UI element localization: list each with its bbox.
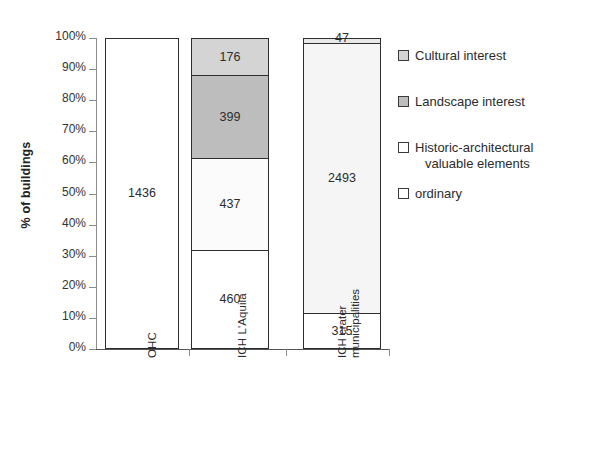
y-tick-label: 20% (62, 278, 86, 292)
segment-landscape-interest[interactable]: 399 (192, 76, 268, 159)
segment-value-label: 2493 (328, 172, 356, 185)
x-category-tick (189, 349, 190, 356)
plot-area: 100% 90% 80% 70% 60% 50% 40% 30% (96, 38, 390, 350)
segment-ordinary[interactable]: 460 (192, 251, 268, 348)
segment-historic-architectural[interactable]: 2493 (304, 44, 380, 314)
legend-swatch-icon (398, 96, 409, 107)
y-tick-label: 50% (62, 185, 86, 199)
y-tick-mark (89, 287, 96, 288)
y-tick-mark (89, 225, 96, 226)
segment-value-label: 176 (220, 51, 241, 64)
bar-ich-laquila[interactable]: 176 399 437 460 (191, 38, 269, 349)
legend-item-ordinary[interactable]: ordinary (398, 186, 598, 202)
legend-item-landscape-interest[interactable]: Landscape interest (398, 94, 598, 110)
legend-swatch-icon (398, 188, 409, 199)
legend-label: ordinary (415, 186, 462, 202)
y-tick-label: 40% (62, 216, 86, 230)
y-tick-mark (89, 256, 96, 257)
y-axis-title: % of buildings (19, 115, 33, 255)
x-axis-label-ich-laquila: ICH L'Aquila (236, 293, 248, 358)
y-tick-label: 60% (62, 153, 86, 167)
segment-ordinary[interactable]: 1436 (106, 39, 178, 348)
legend-item-cultural-interest[interactable]: Cultural interest (398, 48, 598, 64)
legend-label: Landscape interest (415, 94, 525, 110)
segment-value-label: 437 (220, 198, 241, 211)
segment-value-label: 47 (335, 32, 349, 45)
y-tick-mark (89, 131, 96, 132)
legend-swatch-icon (398, 142, 409, 153)
y-tick-label: 80% (62, 91, 86, 105)
x-axis-label-line1: ICH crater (336, 306, 348, 358)
y-tick-mark (89, 69, 96, 70)
legend: Cultural interest Landscape interest His… (398, 48, 598, 232)
legend-label-line2: valuable elements (425, 156, 533, 172)
y-tick-mark (89, 194, 96, 195)
legend-item-historic-architectural[interactable]: Historic-architectural valuable elements (398, 140, 598, 172)
legend-label-line1: Historic-architectural (415, 140, 533, 155)
y-tick-mark (89, 349, 96, 350)
x-axis-label-ohc: OHC (146, 332, 158, 358)
y-tick-mark (89, 162, 96, 163)
y-tick-label: 70% (62, 122, 86, 136)
legend-label: Cultural interest (415, 48, 506, 64)
segment-cultural-interest[interactable]: 176 (192, 39, 268, 76)
y-tick-mark (89, 100, 96, 101)
y-tick-label: 0% (69, 340, 86, 354)
x-axis-label-ich-crater-municipalities: ICH crater municipalities (336, 289, 362, 358)
bar-ohc[interactable]: 1436 (105, 38, 179, 349)
y-axis-line (96, 38, 97, 350)
y-tick-mark (89, 318, 96, 319)
segment-value-label: 1436 (128, 187, 156, 200)
x-category-tick (389, 349, 390, 356)
x-axis-label-line2: municipalities (349, 289, 361, 358)
y-tick-mark (89, 38, 96, 39)
x-category-tick (286, 349, 287, 356)
stacked-bar-chart: % of buildings 100% 90% 80% 70% 60% 50% (0, 0, 605, 462)
segment-historic-architectural[interactable]: 437 (192, 159, 268, 250)
y-tick-label: 30% (62, 247, 86, 261)
y-tick-label: 100% (55, 29, 86, 43)
segment-value-label: 399 (220, 111, 241, 124)
y-tick-label: 90% (62, 60, 86, 74)
legend-label: Historic-architectural valuable elements (415, 140, 533, 172)
y-tick-label: 10% (62, 309, 86, 323)
legend-swatch-icon (398, 50, 409, 61)
